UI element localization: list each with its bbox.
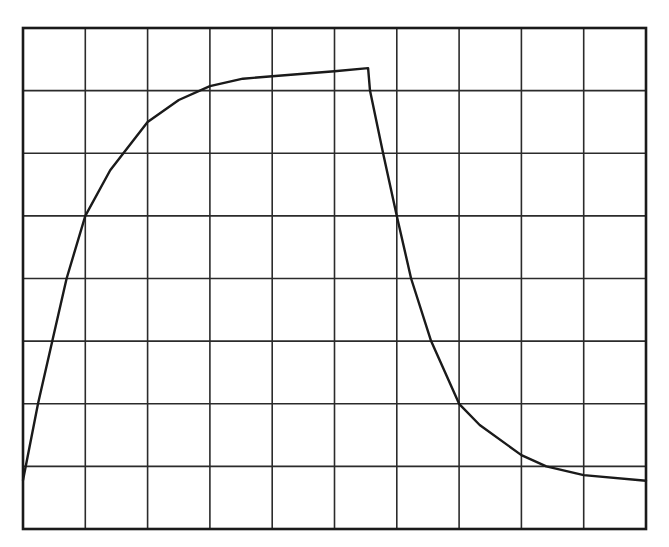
line-chart [0, 0, 669, 547]
chart-grid [23, 28, 646, 529]
